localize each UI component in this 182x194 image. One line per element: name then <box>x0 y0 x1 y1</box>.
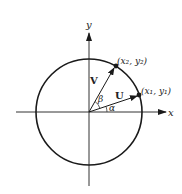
point-x1-y1-label: (x₁, y₁) <box>141 86 172 96</box>
y-axis-label: y <box>85 19 92 30</box>
beta-label: β <box>97 94 103 104</box>
point-x2-y2-label: (x₂, y₂) <box>117 56 148 66</box>
diagram-canvas: y x (x₂, y₂) (x₁, y₁) V U β α <box>0 0 182 194</box>
vector-v-label: V <box>89 75 98 86</box>
vector-u-label: U <box>115 90 124 101</box>
x-axis-label: x <box>168 107 174 118</box>
alpha-arc <box>106 107 107 113</box>
alpha-label: α <box>109 103 115 113</box>
